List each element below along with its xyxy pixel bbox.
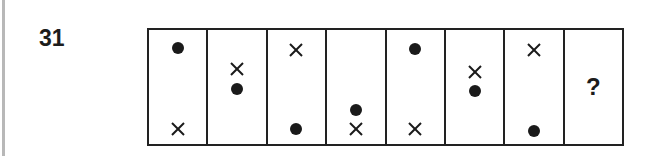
question-mark: ? <box>586 73 601 101</box>
puzzle-cell-7 <box>505 30 564 144</box>
puzzle-cell-1 <box>149 30 208 144</box>
question-number: 31 <box>39 25 65 52</box>
puzzle-cell-6 <box>446 30 505 144</box>
page-edge-strip <box>2 0 5 156</box>
cross-icon <box>230 62 244 76</box>
sequence-puzzle: ? <box>147 28 624 146</box>
puzzle-cell-answer[interactable]: ? <box>565 30 622 144</box>
cross-icon <box>171 122 185 136</box>
puzzle-cell-4 <box>327 30 386 144</box>
cross-icon <box>349 122 363 136</box>
dot-icon <box>469 85 481 97</box>
dot-icon <box>409 43 421 55</box>
cross-icon <box>408 122 422 136</box>
dot-icon <box>172 42 184 54</box>
puzzle-cell-5 <box>387 30 446 144</box>
dot-icon <box>290 123 302 135</box>
dot-icon <box>350 104 362 116</box>
puzzle-cell-3 <box>268 30 327 144</box>
puzzle-cell-2 <box>208 30 267 144</box>
dot-icon <box>528 125 540 137</box>
dot-icon <box>231 83 243 95</box>
cross-icon <box>468 65 482 79</box>
cross-icon <box>289 43 303 57</box>
cross-icon <box>527 43 541 57</box>
